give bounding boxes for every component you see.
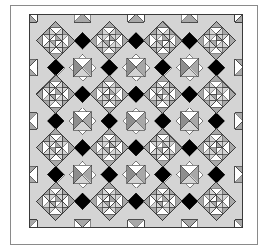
sashing-intersection-pinwheel: [176, 54, 202, 80]
sashing-intersection-pinwheel: [69, 108, 95, 134]
sashing-intersection-pinwheel: [123, 161, 149, 187]
quilt-diagram-canvas: [0, 0, 268, 250]
sashing-intersection-pinwheel: [176, 161, 202, 187]
quilt-pieced-field: [21, 6, 252, 237]
sashing-intersection-pinwheel: [69, 54, 95, 80]
sashing-intersection-pinwheel: [176, 108, 202, 134]
sashing-intersection-pinwheel: [69, 161, 95, 187]
quilt-pattern-diagram: [0, 0, 268, 250]
sashing-intersection-pinwheel: [123, 108, 149, 134]
sashing-intersection-pinwheel: [123, 54, 149, 80]
